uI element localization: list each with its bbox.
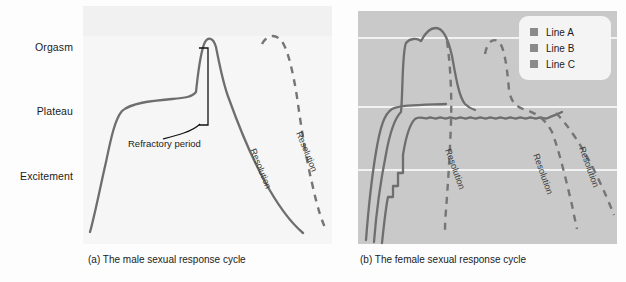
axis-label-orgasm: Orgasm — [35, 41, 73, 53]
panel-a-tint-top — [83, 6, 332, 36]
legend-swatch-icon — [530, 28, 538, 36]
y-axis-labels: Orgasm Plateau Excitement — [20, 41, 73, 182]
legend-item-label: Line A — [546, 27, 574, 38]
legend-swatch-icon — [530, 44, 538, 52]
panel-a-caption: (a) The male sexual response cycle — [88, 254, 246, 265]
figure-root: Refractory period Resolution Resolution … — [0, 0, 626, 282]
axis-label-plateau: Plateau — [37, 105, 73, 117]
legend-item-label: Line B — [546, 43, 575, 54]
legend-item-label: Line C — [546, 59, 575, 70]
panel-b: Resolution Resolution Resolution Line A … — [358, 11, 617, 244]
refractory-period-label: Refractory period — [128, 138, 201, 149]
panel-b-caption: (b) The female sexual response cycle — [360, 254, 526, 265]
panel-a: Refractory period Resolution Resolution — [83, 6, 332, 244]
figure-canvas: Refractory period Resolution Resolution … — [0, 0, 626, 282]
axis-label-excitement: Excitement — [20, 170, 73, 182]
legend-swatch-icon — [530, 60, 538, 68]
legend[interactable]: Line A Line B Line C — [519, 16, 611, 80]
